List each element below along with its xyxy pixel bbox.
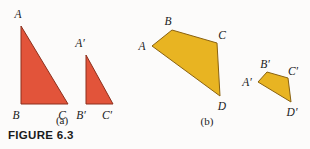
panel-label-a: (a) bbox=[56, 114, 69, 127]
vertex-label-quad-d: D bbox=[217, 100, 227, 112]
vertex-label-quad-a-prime: A′ bbox=[241, 76, 252, 88]
vertex-label-b: B bbox=[12, 109, 19, 121]
panel-b-group: A B C D A′ B′ C′ D′ (b) bbox=[137, 15, 298, 128]
quadrilateral-abcd bbox=[152, 30, 220, 96]
vertex-label-a-prime: A′ bbox=[74, 37, 85, 49]
vertex-label-c-prime: C′ bbox=[102, 109, 113, 121]
vertex-label-a: A bbox=[13, 8, 22, 20]
triangle-abc-prime bbox=[86, 55, 113, 104]
figure-container: A B C A′ B′ C′ (a) A B C D A′ B′ C′ D′ (… bbox=[0, 0, 310, 149]
vertex-label-quad-c: C bbox=[218, 29, 226, 41]
triangle-abc bbox=[21, 26, 68, 104]
panel-label-b: (b) bbox=[201, 115, 214, 128]
figure-caption: FIGURE 6.3 bbox=[8, 129, 74, 141]
vertex-label-b-prime: B′ bbox=[76, 109, 86, 121]
figure-illustration: A B C A′ B′ C′ (a) A B C D A′ B′ C′ D′ (… bbox=[0, 0, 310, 149]
vertex-label-quad-d-prime: D′ bbox=[286, 106, 298, 118]
quadrilateral-abcd-prime bbox=[258, 72, 291, 102]
vertex-label-quad-b: B bbox=[164, 15, 171, 27]
panel-a-group: A B C A′ B′ C′ (a) bbox=[12, 8, 113, 127]
vertex-label-quad-b-prime: B′ bbox=[260, 58, 270, 70]
vertex-label-quad-a: A bbox=[137, 40, 146, 52]
vertex-label-quad-c-prime: C′ bbox=[288, 65, 299, 77]
